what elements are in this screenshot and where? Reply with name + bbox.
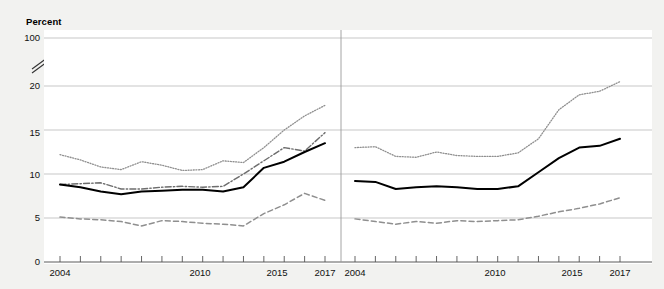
plot-background [44,30,652,264]
chart-figure: Percent 100 20 15 10 5 0 Age Gender 2004… [0,0,664,289]
plot-area [0,0,664,289]
